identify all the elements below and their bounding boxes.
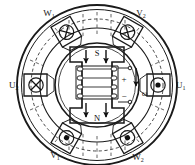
- slot-symbol-dot-U1: [155, 82, 160, 87]
- airgap-flux-lines: [30, 12, 164, 158]
- terminal-label-V2: V2: [136, 8, 146, 19]
- pole-labels: S N: [94, 48, 100, 123]
- figure-canvas: W1 V2 U2 U1 V1 W2 S N + − ω: [0, 0, 195, 165]
- polarity-label-plus: +: [121, 74, 126, 84]
- excitation-polarity-labels: + −: [121, 74, 126, 101]
- pole-label-N: N: [94, 113, 100, 123]
- pole-label-S: S: [95, 48, 100, 58]
- terminal-label-V1: V1: [50, 150, 60, 161]
- rotor-flux-arrows: [86, 50, 106, 117]
- terminal-label-W2: W2: [132, 152, 144, 163]
- machine-cross-section: W1 V2 U2 U1 V1 W2 S N + − ω: [0, 0, 195, 165]
- terminal-label-W1: W1: [43, 8, 55, 19]
- rotation-label-omega: ω: [142, 89, 147, 98]
- stator-slot-U2[interactable]: [24, 74, 54, 96]
- stator-frame: [17, 5, 177, 165]
- polarity-label-minus: −: [121, 91, 126, 101]
- terminal-label-U1: U1: [176, 80, 186, 91]
